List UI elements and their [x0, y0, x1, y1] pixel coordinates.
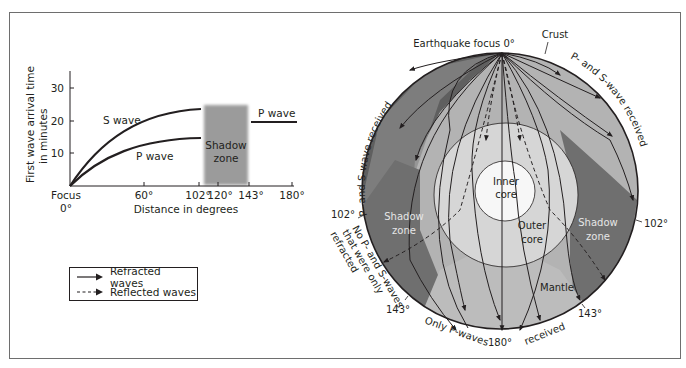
- legend-item-refracted: Refracted waves: [76, 270, 197, 284]
- y-axis-label-line1: First wave arrival time: [24, 66, 36, 183]
- y-tick-label: 10: [51, 147, 64, 159]
- crust-label: Crust: [542, 29, 569, 40]
- s-wave-label: S wave: [103, 114, 141, 126]
- shadow-zone-label-1: Shadow: [205, 139, 247, 151]
- legend-label: Reflected waves: [110, 286, 196, 298]
- y-tick-label: 30: [51, 82, 64, 94]
- shadow-zone-right-label-1: Shadow: [578, 217, 617, 228]
- y-tick-label: 20: [51, 115, 64, 127]
- p-wave-far-label: P wave: [258, 107, 295, 119]
- p-wave-label: P wave: [136, 150, 173, 162]
- inner-core-label-1: Inner: [493, 176, 520, 187]
- x-tick-label-focus: Focus: [51, 189, 81, 201]
- shadow-zone-left-label-2: zone: [392, 225, 416, 236]
- inner-core-label-2: core: [495, 189, 517, 200]
- deg-102-left: 102°: [331, 209, 355, 220]
- x-tick-label: 120°: [207, 189, 232, 201]
- earthquake-focus-label: Earthquake focus 0°: [413, 38, 515, 49]
- x-tick-label: 180°: [279, 189, 304, 201]
- y-axis-label-line2: in minutes: [37, 109, 49, 164]
- outer-core-label-2: core: [521, 234, 543, 245]
- x-tick-label: 143°: [238, 189, 263, 201]
- shadow-zone-label-2: zone: [213, 152, 238, 164]
- shadow-zone-left-label-1: Shadow: [384, 211, 423, 222]
- shadow-zone-right-label-2: zone: [586, 231, 610, 242]
- deg-143-right: 143°: [578, 308, 602, 319]
- p-wave-curve: [70, 138, 201, 186]
- x-axis-label: Distance in degrees: [134, 203, 238, 215]
- x-tick-label-zero: 0°: [60, 202, 72, 214]
- outer-core-label-1: Outer: [518, 220, 547, 231]
- dashed-arrow-icon: [76, 288, 104, 296]
- legend: Refracted waves Reflected waves: [69, 267, 198, 301]
- arrival-time-chart: 30 20 10 First wave arrival time in minu…: [0, 0, 686, 368]
- solid-arrow-icon: [76, 273, 104, 281]
- deg-180: 180°: [488, 337, 512, 348]
- x-tick-label: 60°: [135, 189, 154, 201]
- legend-item-reflected: Reflected waves: [76, 285, 196, 299]
- deg-102-right: 102°: [644, 218, 668, 229]
- mantle-label: Mantle: [540, 282, 574, 293]
